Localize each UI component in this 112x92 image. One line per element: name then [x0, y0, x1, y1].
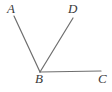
ray-bd-line [40, 18, 73, 72]
point-label-c: C [98, 72, 107, 85]
ray-bc-line [40, 71, 101, 72]
angle-diagram-figure: A D B C [0, 0, 112, 92]
point-label-d: D [68, 2, 77, 15]
point-label-a: A [7, 2, 15, 15]
geometry-canvas [0, 0, 112, 92]
ray-ba-line [14, 16, 40, 72]
point-label-b: B [35, 72, 43, 85]
